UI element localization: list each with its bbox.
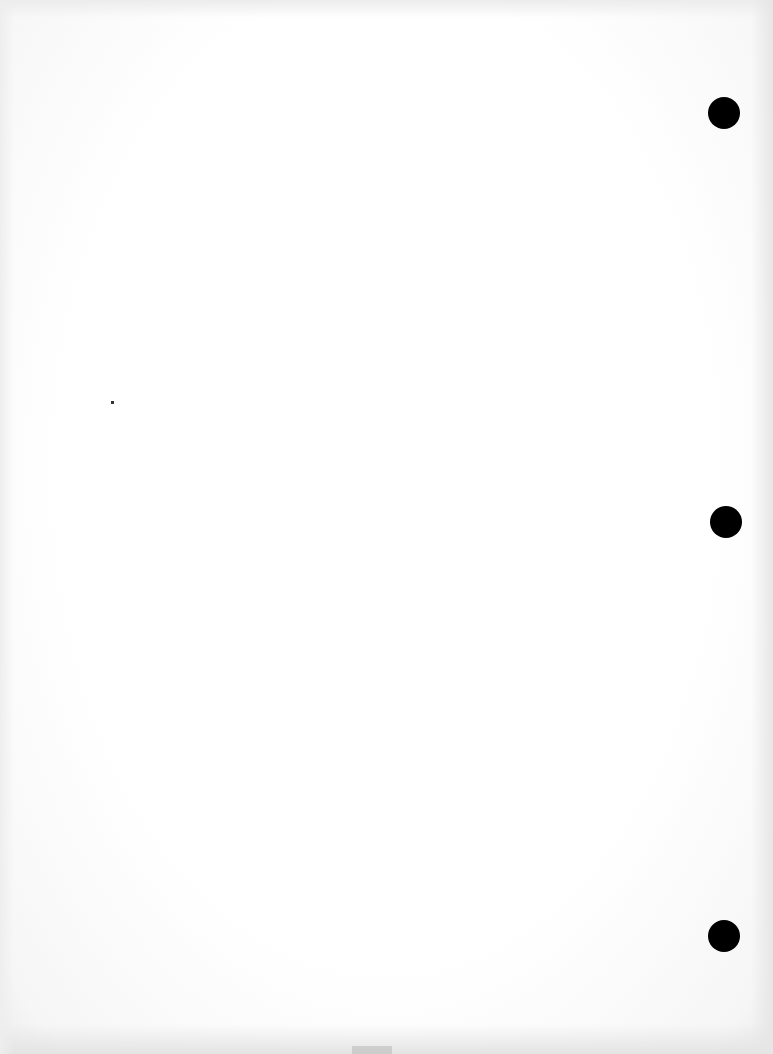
page-edge-shadow-right [751,0,773,1054]
page-edge-shadow-top [0,0,773,18]
punch-hole-top [708,97,740,129]
page-edge-shadow-left [0,0,14,1054]
blank-page: Blank scanned sheet of paper with three … [0,0,773,1054]
scan-smudge [352,1046,392,1054]
punch-hole-middle [710,506,742,538]
dust-speck [111,401,114,404]
punch-hole-bottom [708,920,740,952]
